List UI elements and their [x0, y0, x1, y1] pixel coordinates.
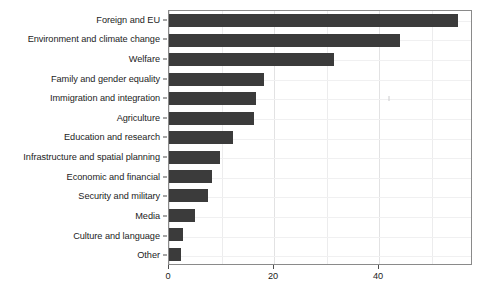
- bar-row: [169, 167, 471, 186]
- x-axis-tick-label: 0: [165, 271, 170, 282]
- bar-row: [169, 11, 471, 30]
- y-axis-tick-mark: [163, 39, 167, 40]
- y-axis-tick-label: Infrastructure and spatial planning: [23, 152, 160, 162]
- y-axis-tick-label: Immigration and integration: [50, 93, 160, 103]
- y-axis-tick: Economic and financial: [0, 167, 160, 187]
- y-axis-tick: Media: [0, 206, 160, 226]
- bar-row: [169, 50, 471, 69]
- y-axis-tick-mark: [163, 137, 167, 138]
- y-axis-tick-mark: [163, 98, 167, 99]
- y-axis-tick-label: Education and research: [64, 132, 160, 142]
- y-axis-tick: Education and research: [0, 128, 160, 148]
- bar: [169, 189, 208, 202]
- bar: [169, 112, 254, 125]
- y-axis-tick: Security and military: [0, 186, 160, 206]
- y-axis-tick-mark: [163, 235, 167, 236]
- bar: [169, 53, 334, 66]
- bar-row: [169, 245, 471, 264]
- y-axis-tick: Immigration and integration: [0, 88, 160, 108]
- y-axis-tick-label: Security and military: [78, 191, 160, 201]
- bars-layer: [169, 11, 471, 264]
- bar: [169, 92, 256, 105]
- bar-chart: Foreign and EUEnvironment and climate ch…: [0, 0, 483, 292]
- y-axis-tick: Family and gender equality: [0, 69, 160, 89]
- x-axis-tick-label: 20: [268, 271, 278, 282]
- x-axis-tick-mark: [378, 265, 379, 269]
- y-axis-tick-mark: [163, 196, 167, 197]
- bar-row: [169, 186, 471, 205]
- bar-row: [169, 225, 471, 244]
- bar: [169, 248, 181, 261]
- y-axis-tick: Agriculture: [0, 108, 160, 128]
- y-axis-tick: Welfare: [0, 49, 160, 69]
- bar: [169, 151, 220, 164]
- y-axis-tick-mark: [163, 59, 167, 60]
- bar: [169, 14, 458, 27]
- bar-row: [169, 108, 471, 127]
- y-axis-tick: Culture and language: [0, 226, 160, 246]
- bar-row: [169, 89, 471, 108]
- x-axis-tick-label: 40: [373, 271, 383, 282]
- x-axis-tick-mark: [168, 265, 169, 269]
- bar-row: [169, 206, 471, 225]
- bar: [169, 73, 264, 86]
- y-axis-tick-label: Agriculture: [117, 113, 160, 123]
- bar-row: [169, 147, 471, 166]
- y-axis-tick-label: Welfare: [129, 54, 160, 64]
- bar-row: [169, 69, 471, 88]
- y-axis-tick-mark: [163, 157, 167, 158]
- y-axis-tick-mark: [163, 215, 167, 216]
- y-axis-tick: Other: [0, 245, 160, 265]
- y-axis-tick-label: Culture and language: [73, 231, 160, 241]
- y-axis-tick: Infrastructure and spatial planning: [0, 147, 160, 167]
- scan-artifact: [388, 96, 390, 101]
- bar: [169, 34, 400, 47]
- y-axis-tick-label: Other: [137, 250, 160, 260]
- bar-row: [169, 128, 471, 147]
- bar: [169, 170, 212, 183]
- y-axis-tick-mark: [163, 19, 167, 20]
- bar: [169, 209, 195, 222]
- x-axis: 02040: [168, 265, 472, 291]
- y-axis-tick-label: Family and gender equality: [51, 74, 160, 84]
- x-axis-tick-mark: [273, 265, 274, 269]
- y-axis-tick-mark: [163, 78, 167, 79]
- y-axis-tick-label: Media: [135, 211, 160, 221]
- y-axis-tick: Environment and climate change: [0, 30, 160, 50]
- bar: [169, 131, 233, 144]
- plot-panel: [168, 10, 472, 265]
- y-axis-tick-mark: [163, 117, 167, 118]
- y-axis-tick-label: Environment and climate change: [28, 34, 160, 44]
- y-axis-tick-label: Foreign and EU: [96, 15, 160, 25]
- y-axis-tick-label: Economic and financial: [67, 172, 160, 182]
- y-axis-tick: Foreign and EU: [0, 10, 160, 30]
- bar-row: [169, 30, 471, 49]
- y-axis-tick-mark: [163, 176, 167, 177]
- y-axis-labels: Foreign and EUEnvironment and climate ch…: [0, 10, 160, 265]
- bar: [169, 228, 183, 241]
- y-axis-tick-mark: [163, 255, 167, 256]
